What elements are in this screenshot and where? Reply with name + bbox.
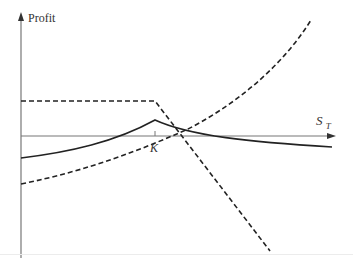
payoff-diagram: Profit K S T [0, 0, 353, 261]
strike-label: K [149, 141, 159, 155]
x-axis-label: S T [316, 113, 332, 131]
net-profit-solid-curve [21, 120, 332, 158]
flat-then-falling-dashed-line [21, 101, 270, 251]
diagram-svg: Profit K S T [0, 0, 353, 261]
rising-dashed-curve [21, 20, 311, 184]
y-axis-arrow-icon [18, 12, 24, 21]
bottom-border [0, 254, 353, 255]
x-axis-label-main: S [316, 113, 323, 128]
x-axis-label-sub: T [326, 121, 332, 131]
x-axis-arrow-icon [327, 133, 336, 139]
y-axis-label: Profit [28, 11, 56, 25]
